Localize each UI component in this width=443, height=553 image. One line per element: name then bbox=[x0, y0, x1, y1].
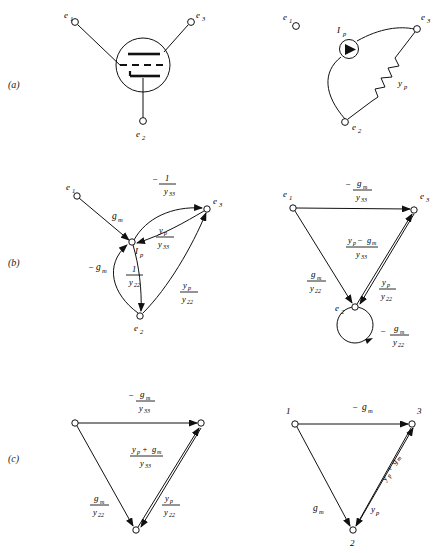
svg-text:y: y bbox=[92, 507, 97, 517]
row-label-b: (b) bbox=[8, 257, 20, 269]
svg-text:m: m bbox=[368, 407, 373, 414]
svg-text:g: g bbox=[311, 269, 316, 279]
node-n3-c-left[interactable] bbox=[198, 420, 204, 426]
svg-text:33: 33 bbox=[168, 191, 175, 197]
terminal-e3[interactable] bbox=[188, 19, 195, 26]
svg-text:y: y bbox=[128, 277, 133, 287]
svg-text:y: y bbox=[157, 239, 162, 249]
svg-text:p: p bbox=[187, 285, 191, 291]
terminal-e2[interactable] bbox=[140, 118, 147, 125]
svg-text:y: y bbox=[164, 493, 169, 503]
node-n1-c-left[interactable] bbox=[72, 420, 78, 426]
svg-text:m: m bbox=[102, 267, 107, 274]
svg-text:g: g bbox=[362, 402, 367, 412]
svg-text:y: y bbox=[131, 444, 136, 454]
svg-text:e: e bbox=[64, 10, 68, 20]
svg-text:m: m bbox=[363, 184, 368, 190]
svg-text:e: e bbox=[283, 12, 287, 22]
svg-text:33: 33 bbox=[360, 197, 367, 203]
svg-text:y: y bbox=[397, 78, 402, 88]
svg-text:33: 33 bbox=[144, 463, 151, 469]
svg-text:e: e bbox=[335, 303, 339, 313]
terminal-e2-right[interactable] bbox=[342, 119, 349, 126]
svg-text:e: e bbox=[283, 189, 287, 199]
svg-text:y: y bbox=[182, 280, 187, 290]
svg-text:1: 1 bbox=[70, 15, 73, 22]
svg-text:p: p bbox=[169, 498, 173, 504]
svg-text:e: e bbox=[213, 196, 217, 206]
svg-text:33: 33 bbox=[143, 408, 150, 414]
svg-text:−: − bbox=[88, 262, 94, 272]
svg-text:y: y bbox=[163, 507, 168, 517]
svg-text:y: y bbox=[309, 283, 314, 293]
node-e3-b-left[interactable] bbox=[204, 206, 210, 212]
svg-text:y: y bbox=[138, 403, 143, 413]
svg-text:e: e bbox=[134, 323, 138, 333]
svg-text:m: m bbox=[146, 395, 151, 401]
svg-text:1: 1 bbox=[289, 194, 292, 201]
svg-text:m: m bbox=[118, 216, 123, 223]
terminal-e1-isolated[interactable] bbox=[293, 23, 300, 30]
node-n2-c-left[interactable] bbox=[133, 527, 139, 533]
page-header-left bbox=[10, 2, 11, 7]
svg-text:g: g bbox=[94, 493, 99, 503]
node-n3-c-right[interactable] bbox=[409, 421, 415, 427]
svg-text:e: e bbox=[352, 122, 356, 132]
svg-text:g: g bbox=[367, 235, 371, 245]
svg-text:22: 22 bbox=[134, 282, 140, 288]
node-n2-c-right[interactable] bbox=[350, 527, 356, 533]
svg-text:33: 33 bbox=[360, 254, 367, 260]
svg-text:e: e bbox=[196, 10, 200, 20]
svg-text:g: g bbox=[357, 178, 362, 188]
figure-container: (a) (b) (c) e 1 e 3 e 2 bbox=[0, 0, 443, 553]
terminal-e3-right[interactable] bbox=[414, 26, 421, 33]
svg-text:y: y bbox=[355, 249, 360, 259]
svg-text:−: − bbox=[128, 390, 134, 400]
svg-text:p: p bbox=[163, 230, 167, 236]
svg-text:y: y bbox=[139, 458, 144, 468]
node-e2-b-left[interactable] bbox=[137, 313, 143, 319]
node-label-n3-c-right: 3 bbox=[416, 406, 422, 416]
svg-text:1: 1 bbox=[289, 17, 292, 24]
svg-text:22: 22 bbox=[315, 288, 321, 294]
svg-text:33: 33 bbox=[162, 244, 169, 250]
svg-text:m: m bbox=[100, 499, 105, 505]
svg-text:22: 22 bbox=[187, 299, 193, 305]
svg-text:y: y bbox=[370, 504, 375, 514]
svg-text:g: g bbox=[152, 444, 156, 454]
svg-text:e: e bbox=[66, 182, 70, 192]
node-e3-b-right[interactable] bbox=[411, 207, 417, 213]
svg-text:p: p bbox=[136, 449, 140, 455]
svg-text:y: y bbox=[355, 192, 360, 202]
svg-text:y: y bbox=[158, 225, 163, 235]
svg-text:22: 22 bbox=[169, 512, 175, 518]
svg-text:y: y bbox=[347, 235, 352, 245]
svg-text:e: e bbox=[136, 129, 140, 139]
svg-text:y: y bbox=[381, 277, 386, 287]
signal-flow-graph-figure: (a) (b) (c) e 1 e 3 e 2 bbox=[0, 0, 443, 553]
svg-text:p: p bbox=[386, 282, 390, 288]
node-e1-b-right[interactable] bbox=[290, 205, 296, 211]
svg-text:m: m bbox=[317, 275, 322, 281]
row-label-a: (a) bbox=[8, 79, 20, 91]
node-label-n2-c-right: 2 bbox=[350, 538, 355, 548]
svg-text:m: m bbox=[157, 449, 162, 455]
node-ip-b-left[interactable] bbox=[129, 239, 135, 245]
svg-text:y: y bbox=[181, 294, 186, 304]
svg-text:1: 1 bbox=[72, 187, 75, 194]
svg-text:1: 1 bbox=[132, 264, 136, 274]
row-label-c: (c) bbox=[8, 453, 20, 465]
svg-text:−: − bbox=[352, 402, 358, 412]
svg-text:g: g bbox=[394, 323, 399, 333]
svg-text:−: − bbox=[345, 179, 351, 189]
svg-text:g: g bbox=[96, 262, 101, 272]
svg-text:p: p bbox=[352, 240, 356, 246]
page-header-right bbox=[428, 2, 429, 7]
node-n1-c-right[interactable] bbox=[292, 421, 298, 427]
svg-text:g: g bbox=[313, 503, 318, 513]
svg-text:+: + bbox=[142, 444, 148, 454]
svg-text:g: g bbox=[140, 389, 145, 399]
svg-text:22: 22 bbox=[398, 342, 404, 348]
svg-text:−: − bbox=[152, 174, 158, 184]
node-e2-b-right[interactable] bbox=[352, 304, 358, 310]
